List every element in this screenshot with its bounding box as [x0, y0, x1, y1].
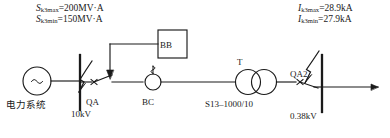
- relay-unit-label: BB: [160, 41, 172, 50]
- transformer-label: T: [237, 58, 243, 67]
- breaker-lv-label: QA2: [290, 70, 308, 79]
- sensor-label: BC: [142, 98, 154, 107]
- bus-10kv-label: 10kV: [71, 110, 91, 119]
- sk-max-label: Sk3max=200MV·A: [36, 4, 104, 14]
- sk-min-value: =150MV·A: [58, 14, 103, 24]
- breaker-hv-label: QA: [86, 98, 99, 107]
- ik-max-subscript: k3max: [301, 6, 319, 13]
- power-system-label: 电力系统: [6, 100, 46, 110]
- sk-min-subscript: k3min: [41, 18, 58, 25]
- source-capacity-labels: Sk3max=200MV·A Sk3min=150MV·A: [36, 4, 104, 27]
- transformer-winding-primary: [236, 70, 261, 95]
- outgoing-feeder-arrowhead: [371, 84, 378, 90]
- sensor-symbol: [145, 74, 161, 90]
- fault-current-labels: Ik3max=28.9kA Ik3min=27.9kA: [298, 4, 353, 27]
- ik-min-subscript: k3min: [301, 18, 318, 25]
- sk-max-value: =200MV·A: [59, 3, 104, 13]
- single-line-diagram: Sk3max=200MV·A Sk3min=150MV·A Ik3max=28.…: [0, 0, 390, 138]
- ac-wave-icon: [32, 80, 43, 84]
- ik-min-value: =27.9kA: [318, 14, 352, 24]
- sk-max-subscript: k3max: [41, 6, 59, 13]
- bus-038kv-label: 0.38kV: [290, 112, 317, 121]
- ik-max-value: =28.9kA: [319, 3, 353, 13]
- ik-max-label: Ik3max=28.9kA: [298, 4, 353, 14]
- ik-min-label: Ik3min=27.9kA: [298, 15, 353, 25]
- sk-min-label: Sk3min=150MV·A: [36, 15, 104, 25]
- transformer-spec-label: S13–1000/10: [205, 100, 253, 109]
